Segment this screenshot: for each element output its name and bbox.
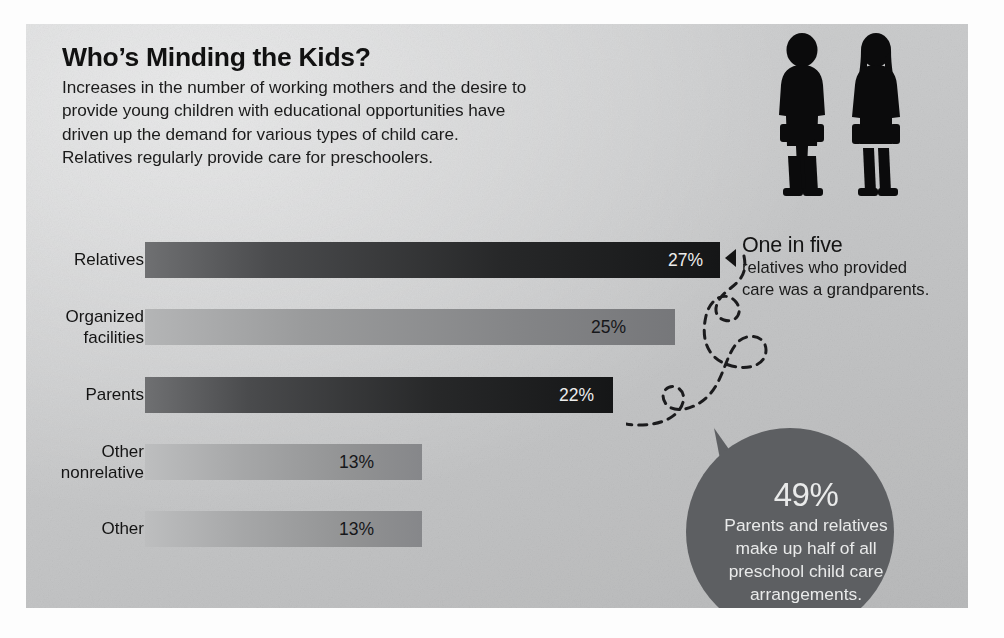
bar-label-parents: Parents [26,385,144,406]
annotation-lead: One in five [742,233,968,257]
bar-label-relatives: Relatives [26,250,144,271]
bar-other [145,511,422,547]
bar-other-nonrelative [145,444,422,480]
bar-value-other: 13% [339,511,374,547]
scanned-page: edu atio al opportu ities various types … [0,0,1004,638]
bar-value-organized-facilities: 25% [591,309,626,345]
bar-value-parents: 22% [559,377,594,413]
bar-parents [145,377,613,413]
infographic-panel: Who’s Minding the Kids? Increases in the… [26,24,968,608]
bar-value-other-nonrelative: 13% [339,444,374,480]
annotation-callout: One in five relatives who provided care … [742,233,968,300]
bubble-description: Parents and relatives make up half of al… [690,514,922,606]
bar-label-other: Other [26,519,144,540]
left-triangle-arrow-icon [725,249,736,267]
bubble-value: 49% [690,476,922,514]
bar-label-other-nonrelative: Other nonrelative [26,442,144,483]
bar-label-organized-facilities: Organized facilities [26,307,144,348]
bubble-text-block: 49% Parents and relatives make up half o… [690,476,922,606]
annotation-body: relatives who provided care was a grandp… [742,257,968,300]
